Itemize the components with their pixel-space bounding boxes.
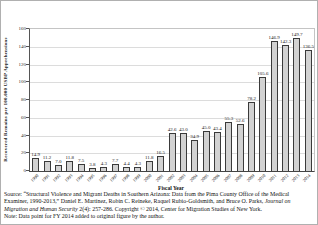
bar — [214, 132, 221, 171]
bar-value-label: 52.6 — [236, 118, 245, 123]
y-tick-label: 20 — [7, 150, 26, 155]
bar-value-label: 136.5 — [303, 44, 314, 49]
bar-value-label: 55.3 — [224, 116, 233, 121]
footnote: Note: Data point for FY 2014 added to or… — [4, 213, 164, 219]
bar-value-label: 43.0 — [179, 127, 188, 132]
bar-value-label: 45.0 — [202, 125, 211, 130]
bar — [237, 124, 244, 171]
bar — [66, 161, 73, 171]
bar — [78, 164, 85, 171]
bar — [146, 161, 153, 171]
bar — [32, 158, 39, 171]
y-tick-label: 0 — [7, 168, 26, 173]
bar-value-label: 7.7 — [112, 158, 118, 163]
bar — [191, 140, 198, 171]
bar — [259, 77, 266, 171]
bar — [123, 167, 130, 171]
bar-value-label: 3.8 — [89, 162, 95, 167]
bar-value-label: 14.9 — [31, 152, 40, 157]
bar-value-label: 142.3 — [280, 39, 291, 44]
bar-value-label: 4.3 — [101, 161, 107, 166]
y-tick-label: 140 — [7, 43, 26, 48]
bar — [157, 156, 164, 171]
migrant-deaths-bar-chart-figure: Recovered Remains per 100,000 USBP Appre… — [0, 0, 318, 225]
bar — [89, 168, 96, 171]
bar — [225, 122, 232, 171]
bar — [203, 131, 210, 171]
bar-value-label: 105.6 — [257, 71, 268, 76]
bar-value-label: 11.8 — [65, 155, 74, 160]
bar-value-label: 11.2 — [43, 155, 52, 160]
bar-value-label: 4.4 — [123, 161, 129, 166]
bar — [305, 50, 312, 171]
bar — [271, 41, 278, 171]
bar — [134, 167, 141, 171]
bar-value-label: 16.5 — [156, 150, 165, 155]
bar-value-label: 4.3 — [135, 161, 141, 166]
source-text: Source: “Structural Violence and Migrant… — [4, 191, 289, 204]
bar — [293, 38, 300, 171]
bar — [55, 165, 62, 171]
bar — [248, 102, 255, 171]
y-tick-label: 80 — [7, 97, 26, 102]
bar — [44, 161, 51, 171]
bar-value-label: 34.9 — [190, 134, 199, 139]
source-text-tail: 2(4): 257-286. Copyright © 2014, Center … — [78, 206, 262, 212]
bar-value-label: 78.2 — [247, 96, 256, 101]
bar-value-label: 43.4 — [213, 126, 222, 131]
y-tick-label: 60 — [7, 114, 26, 119]
bar-value-label: 7.5 — [78, 158, 84, 163]
y-tick-label: 100 — [7, 79, 26, 84]
plot-area: 14.911.27.011.87.53.84.37.74.44.311.816.… — [29, 28, 315, 172]
bar — [282, 45, 289, 171]
y-tick-label: 40 — [7, 132, 26, 137]
bar — [100, 167, 107, 171]
source-note: Source: “Structural Violence and Migrant… — [4, 191, 314, 220]
bar-value-label: 149.7 — [291, 32, 302, 37]
y-tick-label: 160 — [7, 26, 26, 31]
bar — [169, 133, 176, 171]
bar-value-label: 7.0 — [55, 159, 61, 164]
bar-value-label: 42.6 — [168, 127, 177, 132]
bar-value-label: 146.9 — [269, 35, 280, 40]
y-tick-label: 120 — [7, 61, 26, 66]
bar — [112, 164, 119, 171]
bar — [180, 133, 187, 171]
bar-value-label: 11.8 — [145, 155, 154, 160]
